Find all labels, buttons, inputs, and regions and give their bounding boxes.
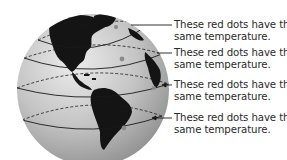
temperature-dot	[120, 57, 125, 62]
annotation-3-line2: same temperature.	[174, 91, 287, 103]
annotation-2: These red dots have the same temperature…	[174, 47, 287, 71]
annotation-3-line1: These red dots have the	[174, 79, 287, 91]
annotation-1-line1: These red dots have the	[174, 19, 287, 31]
globe	[17, 14, 169, 160]
annotation-4-line2: same temperature.	[174, 124, 287, 136]
annotation-2-line2: same temperature.	[174, 59, 287, 71]
annotation-1: These red dots have the same temperature…	[174, 19, 287, 43]
annotation-4-line1: These red dots have the	[174, 112, 287, 124]
temperature-dot	[122, 126, 127, 131]
annotation-4: These red dots have the same temperature…	[174, 112, 287, 136]
temperature-dot	[114, 25, 118, 29]
annotation-1-line2: same temperature.	[174, 31, 287, 43]
temperature-dot	[152, 86, 156, 90]
annotation-3: These red dots have the same temperature…	[174, 79, 287, 103]
annotation-2-line1: These red dots have the	[174, 47, 287, 59]
